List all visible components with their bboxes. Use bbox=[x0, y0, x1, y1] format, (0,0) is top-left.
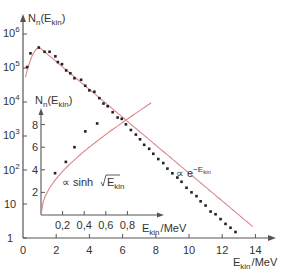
svg-text:106: 106 bbox=[3, 25, 20, 39]
data-point bbox=[84, 84, 87, 87]
neutron-spectrum-chart: 1 10 102 103 104 105 106 02468101214 Nn(… bbox=[0, 0, 281, 275]
data-point bbox=[120, 118, 123, 121]
data-point bbox=[152, 152, 155, 155]
data-point bbox=[229, 226, 232, 229]
x-tick-label: 10 bbox=[183, 244, 195, 256]
data-point bbox=[69, 72, 72, 75]
y-axis-arrow-icon bbox=[20, 14, 26, 22]
inset-data-point bbox=[54, 172, 57, 175]
x-tick-label: 8 bbox=[153, 244, 159, 256]
y-tick-label-1e2: 102 bbox=[3, 162, 20, 176]
data-point bbox=[180, 180, 183, 183]
main-fit-curve bbox=[26, 48, 253, 227]
sinh-annotation: ∝ sinh Ekin bbox=[62, 175, 125, 191]
inset-y-tick-label: 4 bbox=[32, 164, 38, 176]
inset-x-tick-label: 0,4 bbox=[77, 219, 92, 231]
data-point bbox=[80, 78, 83, 81]
data-point bbox=[214, 213, 217, 216]
svg-text:Ekin: Ekin bbox=[107, 176, 125, 191]
inset-x-arrow-icon bbox=[157, 213, 164, 218]
inset-y-tick-label: 2 bbox=[32, 186, 38, 198]
data-point bbox=[88, 89, 91, 92]
inset-x-tick-label: 0,8 bbox=[120, 219, 135, 231]
y-tick-label-1: 1 bbox=[7, 232, 13, 244]
data-point bbox=[26, 66, 29, 69]
inset-data-point bbox=[73, 146, 76, 149]
y-tick-label-1e4: 104 bbox=[3, 93, 20, 107]
x-tick-label: 2 bbox=[53, 244, 59, 256]
svg-text:104: 104 bbox=[3, 93, 20, 107]
inset-x-tick-label: 0,6 bbox=[98, 219, 113, 231]
data-point bbox=[135, 133, 138, 136]
data-point bbox=[61, 63, 64, 66]
inset-data-point bbox=[96, 122, 99, 125]
inset-y-tick-label: 6 bbox=[32, 141, 38, 153]
x-tick-label: 12 bbox=[216, 244, 228, 256]
data-point bbox=[93, 90, 96, 93]
data-point bbox=[157, 158, 160, 161]
inset-data-point bbox=[84, 130, 87, 133]
data-point bbox=[171, 172, 174, 175]
inset-x-tick-label: 0,2 bbox=[55, 219, 70, 231]
data-point bbox=[190, 191, 193, 194]
x-tick-label: 6 bbox=[120, 244, 126, 256]
data-point bbox=[209, 210, 212, 213]
data-point bbox=[65, 69, 68, 72]
data-point bbox=[57, 61, 60, 64]
y-tick-label-1e5: 105 bbox=[3, 59, 20, 73]
inset-data-points bbox=[54, 122, 99, 174]
data-point bbox=[204, 204, 207, 207]
inset-x-axis-title: Ekin/MeV bbox=[142, 222, 187, 237]
y-tick-label-10: 10 bbox=[4, 198, 16, 210]
data-point bbox=[48, 50, 51, 53]
data-point bbox=[102, 102, 105, 105]
svg-text:102: 102 bbox=[3, 162, 20, 176]
y-tick-label-1e6: 106 bbox=[3, 25, 20, 39]
data-point bbox=[130, 129, 133, 132]
data-point bbox=[43, 50, 46, 53]
svg-text:∝ sinh: ∝ sinh bbox=[62, 176, 93, 188]
data-point bbox=[111, 111, 114, 114]
data-point bbox=[106, 105, 109, 108]
data-point bbox=[195, 195, 198, 198]
inset-data-point bbox=[65, 161, 68, 164]
data-point bbox=[219, 218, 222, 221]
data-point bbox=[234, 231, 237, 234]
inset-sinh-fit-curve bbox=[41, 103, 151, 215]
data-point bbox=[98, 97, 101, 100]
data-point bbox=[166, 167, 169, 170]
data-point bbox=[116, 116, 119, 119]
data-point bbox=[162, 162, 165, 165]
data-point bbox=[143, 144, 146, 147]
inset-y-arrow-icon bbox=[39, 108, 44, 115]
data-point bbox=[73, 77, 76, 80]
data-point bbox=[148, 148, 151, 151]
data-point bbox=[37, 46, 40, 49]
svg-text:105: 105 bbox=[3, 59, 20, 73]
main-data-points bbox=[26, 46, 237, 233]
main-x-axis-title: Ekin/MeV bbox=[233, 256, 278, 271]
x-tick-label: 0 bbox=[20, 244, 26, 256]
main-y-axis-title: Nn(Ekin) bbox=[28, 12, 65, 27]
x-tick-label: 14 bbox=[249, 244, 261, 256]
y-tick-label-1e3: 103 bbox=[3, 127, 20, 141]
svg-text:103: 103 bbox=[3, 127, 20, 141]
inset-y-axis-title: Nn(Ekin) bbox=[35, 94, 72, 109]
data-point bbox=[185, 186, 188, 189]
x-axis-arrow-icon bbox=[268, 235, 276, 241]
data-point bbox=[199, 200, 202, 203]
data-point bbox=[54, 55, 57, 58]
inset-ticks bbox=[41, 125, 127, 215]
data-point bbox=[125, 123, 128, 126]
x-tick-label: 4 bbox=[86, 244, 92, 256]
data-point bbox=[139, 138, 142, 141]
data-point bbox=[224, 223, 227, 226]
inset-y-tick-label: 8 bbox=[32, 119, 38, 131]
inset-axes bbox=[41, 114, 160, 215]
main-x-tick-labels: 02468101214 bbox=[20, 244, 262, 256]
main-axes bbox=[23, 20, 272, 238]
data-point bbox=[29, 52, 32, 55]
